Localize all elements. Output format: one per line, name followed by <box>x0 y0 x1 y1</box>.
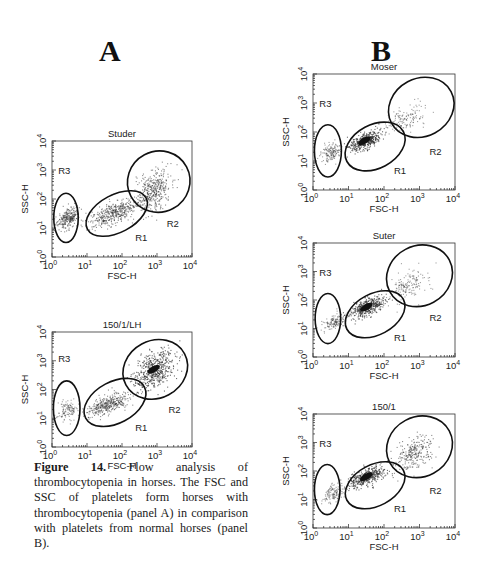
gate-label: R1 <box>394 332 406 343</box>
x-axis-label: FSC-H <box>107 270 136 281</box>
axis-ticks <box>52 332 192 447</box>
x-tick-label: 103 <box>410 192 425 204</box>
y-axis-label: SSC-H <box>280 456 291 486</box>
panel-a-label: A <box>99 34 121 68</box>
y-tick-label: 100 <box>297 521 309 536</box>
y-tick-label: 102 <box>36 382 48 397</box>
gate-label: R2 <box>429 485 441 496</box>
gate-label: R2 <box>167 218 179 229</box>
y-tick-label: 101 <box>297 321 309 336</box>
plot-title: Studer <box>108 128 136 139</box>
x-tick-label: 103 <box>148 259 163 271</box>
x-tick-label: 104 <box>183 259 198 271</box>
x-tick-label: 104 <box>446 192 461 204</box>
x-axis-label: FSC-H <box>369 541 398 552</box>
gate-label: R2 <box>429 146 441 157</box>
plot-title: Suter <box>373 230 396 241</box>
gate-label: R3 <box>58 165 70 176</box>
x-tick-label: 101 <box>339 192 354 204</box>
x-tick-label: 104 <box>446 359 461 371</box>
gate-r2 <box>378 66 465 149</box>
y-tick-label: 102 <box>36 192 48 207</box>
gate-label: R1 <box>394 165 406 176</box>
scatter-points <box>317 432 440 505</box>
scatter-points <box>317 98 434 165</box>
y-tick-label: 103 <box>36 353 48 368</box>
y-tick-label: 101 <box>297 154 309 169</box>
x-tick-label: 101 <box>78 259 93 271</box>
x-tick-label: 104 <box>446 530 461 542</box>
y-tick-label: 101 <box>297 492 309 507</box>
axis-ticks <box>313 74 455 190</box>
y-axis-label: SSC-H <box>280 285 291 315</box>
y-tick-label: 104 <box>36 134 48 149</box>
x-tick-label: 103 <box>410 359 425 371</box>
gate-label: R1 <box>135 232 147 243</box>
y-axis-label: SSC-H <box>280 117 291 147</box>
scatter-points <box>54 340 183 424</box>
y-tick-label: 104 <box>297 407 309 422</box>
x-tick-label: 101 <box>339 530 354 542</box>
y-tick-label: 102 <box>297 125 309 140</box>
plot-frame <box>52 332 192 447</box>
y-tick-label: 103 <box>297 435 309 450</box>
plot-title: Moser <box>371 61 397 72</box>
scatter-plot-150-1: 150/1100101102103104100101102103104FSC-H… <box>279 398 475 571</box>
scatter-plot-studer: Studer100101102103104100101102103104FSC-… <box>18 125 212 311</box>
y-axis-label: SSC-H <box>19 375 30 405</box>
y-tick-label: 103 <box>297 96 309 111</box>
gate-label: R3 <box>319 98 331 109</box>
x-axis-label: FSC-H <box>369 370 398 381</box>
scatter-plot-suter: Suter100101102103104100101102103104FSC-H… <box>279 227 475 411</box>
y-tick-label: 101 <box>36 411 48 426</box>
gate-label: R2 <box>429 312 441 323</box>
gate-label: R1 <box>394 503 406 514</box>
x-tick-label: 103 <box>410 530 425 542</box>
caption-label: Figure 14. <box>34 460 106 474</box>
gate-label: R3 <box>319 438 331 449</box>
gate-r2 <box>376 405 464 490</box>
y-tick-label: 104 <box>297 67 309 82</box>
y-tick-label: 102 <box>297 293 309 308</box>
gate-label: R1 <box>135 422 147 433</box>
y-tick-label: 100 <box>297 183 309 198</box>
plot-title: 150/1/LH <box>103 319 142 330</box>
x-axis-label: FSC-H <box>369 203 398 214</box>
y-tick-label: 104 <box>297 236 309 251</box>
y-tick-label: 101 <box>36 221 48 236</box>
plot-frame <box>313 74 455 190</box>
y-axis-label: SSC-H <box>19 184 30 214</box>
y-tick-label: 104 <box>36 325 48 340</box>
gate-label: R3 <box>58 353 70 364</box>
plot-title: 150/1 <box>372 401 396 412</box>
figure-caption: Figure 14. Flow analysis of thrombocytop… <box>34 460 248 551</box>
gate-label: R2 <box>168 404 180 415</box>
gate-label: R3 <box>319 267 331 278</box>
y-tick-label: 103 <box>36 163 48 178</box>
y-tick-label: 100 <box>36 250 48 265</box>
y-tick-label: 100 <box>36 440 48 455</box>
y-tick-label: 102 <box>297 464 309 479</box>
y-tick-label: 103 <box>297 264 309 279</box>
y-tick-label: 100 <box>297 350 309 365</box>
scatter-plot-moser: Moser100101102103104100101102103104FSC-H… <box>279 58 475 244</box>
x-tick-label: 101 <box>339 359 354 371</box>
